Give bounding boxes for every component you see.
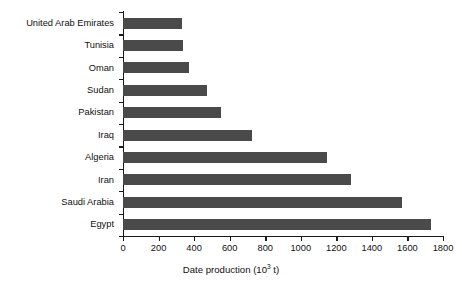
bar-sudan (123, 85, 207, 96)
x-axis-tick-label: 1400 (362, 243, 383, 254)
bar-pakistan (123, 107, 221, 118)
plot-area (123, 12, 443, 236)
y-axis-label-united-arab-emirates: United Arab Emirates (26, 18, 114, 28)
y-axis-tick (119, 146, 124, 147)
x-axis-tick-label: 1600 (397, 243, 418, 254)
bar-tunisia (123, 40, 183, 51)
bar-row (123, 57, 443, 79)
date-production-bar-chart: United Arab EmiratesTunisiaOmanSudanPaki… (0, 0, 462, 291)
bar-row (123, 124, 443, 146)
y-axis-label-iraq: Iraq (98, 130, 114, 140)
y-axis-label-algeria: Algeria (85, 152, 114, 162)
y-axis-tick (119, 102, 124, 103)
bar-oman (123, 62, 189, 73)
y-axis-label-sudan: Sudan (87, 85, 114, 95)
x-axis-tick-label: 1000 (290, 243, 311, 254)
x-axis-tick-label: 800 (257, 243, 273, 254)
bar-egypt (123, 219, 431, 230)
x-axis-tick (265, 236, 266, 241)
x-axis-tick (407, 236, 408, 241)
bar-row (123, 146, 443, 168)
bar-iraq (123, 130, 252, 141)
bar-row (123, 79, 443, 101)
x-axis-tick (230, 236, 231, 241)
bar-saudi-arabia (123, 197, 402, 208)
x-axis-tick (301, 236, 302, 241)
x-axis-tick (336, 236, 337, 241)
y-axis-label-tunisia: Tunisia (84, 40, 114, 50)
bar-row (123, 214, 443, 236)
x-axis-tick-label: 1200 (326, 243, 347, 254)
y-axis-tick (119, 12, 124, 13)
y-axis-tick (119, 79, 124, 80)
bar-row (123, 12, 443, 34)
x-axis-tick-label: 1800 (433, 243, 454, 254)
y-axis-label-pakistan: Pakistan (78, 107, 114, 117)
y-axis-tick (119, 191, 124, 192)
y-axis-tick (119, 169, 124, 170)
x-axis-tick-label: 200 (151, 243, 167, 254)
y-axis-tick (119, 214, 124, 215)
bar-row (123, 34, 443, 56)
y-axis-label-egypt: Egypt (90, 219, 114, 229)
y-axis-label-saudi-arabia: Saudi Arabia (61, 197, 114, 207)
bar-iran (123, 174, 351, 185)
x-axis-tick (372, 236, 373, 241)
y-axis-category-labels: United Arab EmiratesTunisiaOmanSudanPaki… (0, 12, 119, 236)
bar-algeria (123, 152, 327, 163)
x-axis-tick (443, 236, 444, 241)
bar-row (123, 191, 443, 213)
x-axis-tick (123, 236, 124, 241)
x-axis-tick-label: 0 (120, 243, 125, 254)
y-axis-tick (119, 34, 124, 35)
y-axis-label-iran: Iran (98, 175, 114, 185)
bar-row (123, 169, 443, 191)
y-axis-tick (119, 57, 124, 58)
x-axis-title-exponent: 3 (267, 263, 271, 270)
x-axis-tick-label: 600 (222, 243, 238, 254)
x-axis-tick-label: 400 (186, 243, 202, 254)
x-axis-tick (159, 236, 160, 241)
bar-united-arab-emirates (123, 18, 182, 29)
bar-row (123, 102, 443, 124)
y-axis-tick (119, 124, 124, 125)
x-axis-line (123, 236, 444, 237)
x-axis-title: Date production (103 t) (0, 264, 462, 275)
x-axis-tick (194, 236, 195, 241)
y-axis-label-oman: Oman (89, 63, 114, 73)
